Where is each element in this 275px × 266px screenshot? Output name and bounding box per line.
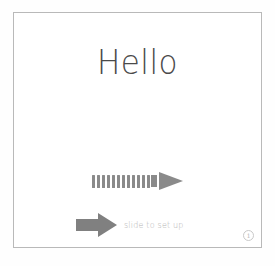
gesture-stripe <box>147 175 150 188</box>
striped-arrow-right-icon <box>92 175 150 188</box>
gesture-stripe <box>132 175 135 188</box>
page-title: Hello <box>14 46 261 79</box>
gesture-stripe <box>142 175 145 188</box>
info-circle-icon[interactable]: i <box>243 230 254 241</box>
slide-to-setup-label: slide to set up <box>124 221 184 230</box>
gesture-stripe <box>137 175 140 188</box>
block-arrow-right-icon[interactable] <box>76 211 118 239</box>
gesture-stripe <box>112 175 115 188</box>
gesture-stripe <box>92 175 95 188</box>
gesture-stripe <box>122 175 125 188</box>
gesture-stripe <box>127 175 130 188</box>
gesture-stripe <box>97 175 100 188</box>
gesture-stripe <box>107 175 110 188</box>
slide-gesture-hint <box>90 168 202 194</box>
gesture-stripe <box>117 175 120 188</box>
gesture-arrowhead-icon <box>151 168 183 194</box>
device-frame: Hello <box>13 12 262 248</box>
gesture-stripe <box>102 175 105 188</box>
slide-to-setup-control[interactable]: slide to set up <box>76 211 206 239</box>
setup-screen: Hello <box>0 0 275 266</box>
